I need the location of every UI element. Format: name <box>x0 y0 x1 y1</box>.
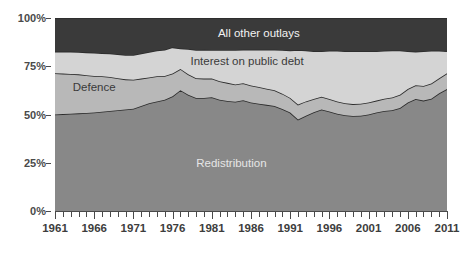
x-tick-label: 1961 <box>42 222 68 234</box>
x-tick-mark-major <box>447 212 448 219</box>
x-tick-mark-minor <box>71 212 72 217</box>
x-tick-mark-minor <box>126 212 127 217</box>
y-axis: 0%25%50%75%100% <box>0 18 46 247</box>
x-tick-mark-major <box>251 212 252 219</box>
x-tick-mark-minor <box>110 212 111 217</box>
x-tick-mark-minor <box>220 212 221 217</box>
y-tick-mark <box>46 18 51 19</box>
x-tick-mark-minor <box>180 212 181 217</box>
x-tick-mark-minor <box>298 212 299 217</box>
x-tick-mark-minor <box>188 212 189 217</box>
stacked-area-series <box>55 18 447 211</box>
x-tick-mark-minor <box>416 212 417 217</box>
x-tick-label: 1971 <box>121 222 147 234</box>
y-tick-label: 50% <box>4 109 46 120</box>
x-tick-mark-minor <box>314 212 315 217</box>
x-tick-mark-minor <box>353 212 354 217</box>
x-tick-mark-minor <box>243 212 244 217</box>
x-tick-mark-major <box>329 212 330 219</box>
y-tick-label: 0% <box>4 206 46 217</box>
x-tick-mark-major <box>55 212 56 219</box>
x-tick-mark-minor <box>235 212 236 217</box>
plot-area <box>55 18 447 211</box>
x-tick-mark-minor <box>227 212 228 217</box>
y-tick-mark <box>46 211 51 212</box>
x-tick-mark-minor <box>204 212 205 217</box>
x-tick-mark-minor <box>141 212 142 217</box>
x-axis: 1961196619711976198119861991199620012006… <box>55 211 448 256</box>
x-tick-label: 1976 <box>160 222 186 234</box>
y-tick-label: 100% <box>4 13 46 24</box>
x-tick-mark-minor <box>157 212 158 217</box>
x-tick-mark-major <box>212 212 213 219</box>
x-tick-mark-minor <box>306 212 307 217</box>
x-tick-mark-minor <box>423 212 424 217</box>
x-tick-mark-minor <box>267 212 268 217</box>
x-tick-label: 2001 <box>356 222 382 234</box>
x-tick-label: 1966 <box>81 222 107 234</box>
x-tick-mark-major <box>369 212 370 219</box>
x-tick-mark-minor <box>196 212 197 217</box>
x-tick-mark-minor <box>439 212 440 217</box>
x-tick-mark-minor <box>63 212 64 217</box>
x-tick-mark-minor <box>431 212 432 217</box>
x-tick-mark-minor <box>392 212 393 217</box>
x-tick-label: 1981 <box>199 222 225 234</box>
x-tick-mark-minor <box>259 212 260 217</box>
x-tick-mark-minor <box>376 212 377 217</box>
x-tick-mark-major <box>94 212 95 219</box>
x-tick-label: 1986 <box>238 222 264 234</box>
x-tick-label: 1991 <box>277 222 303 234</box>
x-tick-mark-minor <box>149 212 150 217</box>
x-tick-mark-minor <box>322 212 323 217</box>
x-tick-mark-minor <box>361 212 362 217</box>
x-tick-mark-minor <box>79 212 80 217</box>
y-tick-mark <box>46 115 51 116</box>
y-tick-label: 25% <box>4 157 46 168</box>
x-tick-mark-minor <box>282 212 283 217</box>
x-tick-mark-minor <box>400 212 401 217</box>
x-tick-mark-minor <box>86 212 87 217</box>
y-tick-mark <box>46 66 51 67</box>
x-tick-mark-minor <box>165 212 166 217</box>
x-tick-mark-minor <box>275 212 276 217</box>
x-tick-mark-minor <box>345 212 346 217</box>
x-tick-mark-major <box>408 212 409 219</box>
area-band-all-other-outlays <box>55 18 447 55</box>
x-tick-mark-major <box>290 212 291 219</box>
y-tick-mark <box>46 163 51 164</box>
x-tick-mark-minor <box>337 212 338 217</box>
x-tick-mark-major <box>173 212 174 219</box>
y-tick-label: 75% <box>4 61 46 72</box>
x-tick-mark-major <box>133 212 134 219</box>
x-tick-label: 1996 <box>317 222 343 234</box>
x-tick-mark-minor <box>384 212 385 217</box>
x-tick-mark-minor <box>102 212 103 217</box>
chart-figure: 0%25%50%75%100% All other outlaysInteres… <box>0 0 475 256</box>
x-tick-label: 2011 <box>435 222 460 234</box>
x-tick-label: 2006 <box>395 222 421 234</box>
x-tick-mark-minor <box>118 212 119 217</box>
